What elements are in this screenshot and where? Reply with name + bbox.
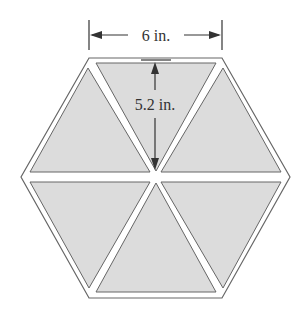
width-label: 6 in. — [142, 27, 170, 44]
hexagon-diagram: 6 in. 5.2 in. — [0, 0, 300, 320]
height-label: 5.2 in. — [135, 96, 175, 113]
